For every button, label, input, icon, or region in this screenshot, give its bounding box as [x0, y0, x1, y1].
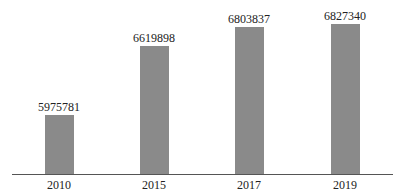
- bar-2015: [140, 46, 169, 174]
- x-tick-2019: 2019: [315, 178, 375, 193]
- data-label-2019: 6827340: [305, 9, 385, 24]
- bar-2017: [235, 27, 264, 174]
- data-label-2017: 6803837: [209, 12, 289, 27]
- x-axis-line: [12, 174, 393, 175]
- x-tick-2017: 2017: [219, 178, 279, 193]
- bar-2010: [45, 115, 74, 174]
- x-tick-2010: 2010: [29, 178, 89, 193]
- data-label-2015: 6619898: [114, 31, 194, 46]
- x-tick-2015: 2015: [124, 178, 184, 193]
- data-label-2010: 5975781: [19, 100, 99, 115]
- bar-2019: [331, 24, 360, 174]
